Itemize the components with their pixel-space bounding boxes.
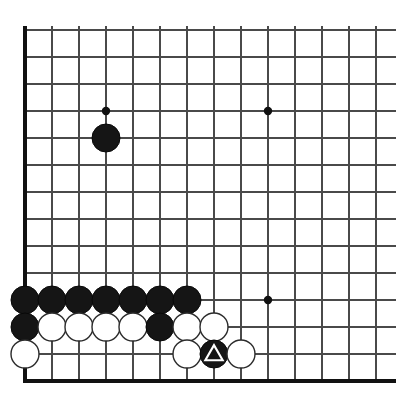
stone-white-i13-disc[interactable] (227, 340, 255, 368)
stone-white-g13[interactable] (173, 340, 201, 368)
stone-black-f12-disc[interactable] (146, 313, 174, 341)
stone-black-d5-disc[interactable] (92, 124, 120, 152)
stone-white-d12-disc[interactable] (92, 313, 120, 341)
stone-black-a11-disc[interactable] (11, 286, 39, 314)
stone-black-a12-disc[interactable] (11, 313, 39, 341)
stone-black-c11-disc[interactable] (65, 286, 93, 314)
stone-black-h13-marked[interactable] (200, 340, 228, 368)
stone-white-g12-disc[interactable] (173, 313, 201, 341)
stone-black-f11-disc[interactable] (146, 286, 174, 314)
stone-white-b12[interactable] (38, 313, 66, 341)
stone-black-c11[interactable] (65, 286, 93, 314)
star-point-lower-right (264, 296, 272, 304)
star-point-upper-left (102, 107, 110, 115)
stone-black-d11[interactable] (92, 286, 120, 314)
stone-white-g12[interactable] (173, 313, 201, 341)
go-board-diagram (0, 0, 416, 412)
stone-white-c12[interactable] (65, 313, 93, 341)
stone-black-g11[interactable] (173, 286, 201, 314)
stone-black-f11[interactable] (146, 286, 174, 314)
stone-white-h12[interactable] (200, 313, 228, 341)
stone-black-b11-disc[interactable] (38, 286, 66, 314)
stone-white-b12-disc[interactable] (38, 313, 66, 341)
stone-white-a13-disc[interactable] (11, 340, 39, 368)
stone-black-a11[interactable] (11, 286, 39, 314)
stone-white-e12-disc[interactable] (119, 313, 147, 341)
stone-black-a12[interactable] (11, 313, 39, 341)
stone-black-f12[interactable] (146, 313, 174, 341)
stone-white-g13-disc[interactable] (173, 340, 201, 368)
stone-black-b11[interactable] (38, 286, 66, 314)
go-board-canvas[interactable] (0, 0, 416, 412)
stone-white-e12[interactable] (119, 313, 147, 341)
stone-black-d11-disc[interactable] (92, 286, 120, 314)
stone-white-a13[interactable] (11, 340, 39, 368)
stone-black-g11-disc[interactable] (173, 286, 201, 314)
stone-black-e11[interactable] (119, 286, 147, 314)
stone-white-h12-disc[interactable] (200, 313, 228, 341)
stone-white-c12-disc[interactable] (65, 313, 93, 341)
stone-white-d12[interactable] (92, 313, 120, 341)
stone-black-d5[interactable] (92, 124, 120, 152)
star-point-upper-right (264, 107, 272, 115)
stone-black-e11-disc[interactable] (119, 286, 147, 314)
stone-white-i13[interactable] (227, 340, 255, 368)
